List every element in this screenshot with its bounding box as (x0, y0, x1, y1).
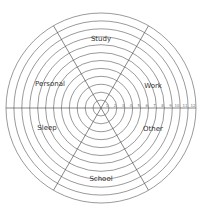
tick-label: 6 (145, 103, 148, 108)
scale-ticks: 123456789101112 (106, 103, 196, 108)
sector-dividers (6, 26, 196, 191)
tick-label: 8 (161, 103, 164, 108)
tick-label: 7 (153, 103, 156, 108)
sector-label-personal: Personal (35, 80, 65, 88)
tick-label: 12 (190, 103, 196, 108)
sector-label-study: Study (91, 35, 111, 43)
sector-label-school: School (89, 175, 112, 183)
tick-label: 5 (138, 103, 141, 108)
tick-label: 9 (169, 103, 172, 108)
tick-label: 2 (114, 103, 117, 108)
tick-label: 11 (182, 103, 188, 108)
sector-label-work: Work (144, 82, 163, 90)
sector-label-sleep: Sleep (37, 124, 57, 132)
sector-labels: StudyWorkOtherSchoolSleepPersonal (35, 35, 163, 183)
tick-label: 10 (175, 103, 181, 108)
balance-wheel: 123456789101112 StudyWorkOtherSchoolSlee… (0, 0, 202, 219)
sector-label-other: Other (143, 125, 163, 133)
